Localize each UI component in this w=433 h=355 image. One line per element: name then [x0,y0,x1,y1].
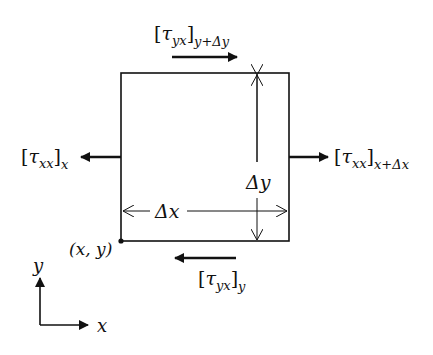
bottom-stress-label: [τyx]y [198,267,246,294]
fluid-element-box [121,73,289,241]
top-stress-label: [τyx]y+Δy [154,22,230,49]
y-axis-label: y [32,255,44,276]
dy-label: Δy [245,171,271,193]
corner-point [118,238,123,243]
right-stress-label: [τxx]x+Δx [334,145,410,172]
dx-label: Δx [154,200,180,222]
left-stress-label: [τxx]x [21,145,69,172]
x-axis-label: x [97,315,107,336]
corner-label: (x, y) [69,239,112,259]
stress-element-diagram: Δy Δx [τyx]y+Δy [τyx]y [τxx]x [τxx]x+Δx … [0,0,433,355]
